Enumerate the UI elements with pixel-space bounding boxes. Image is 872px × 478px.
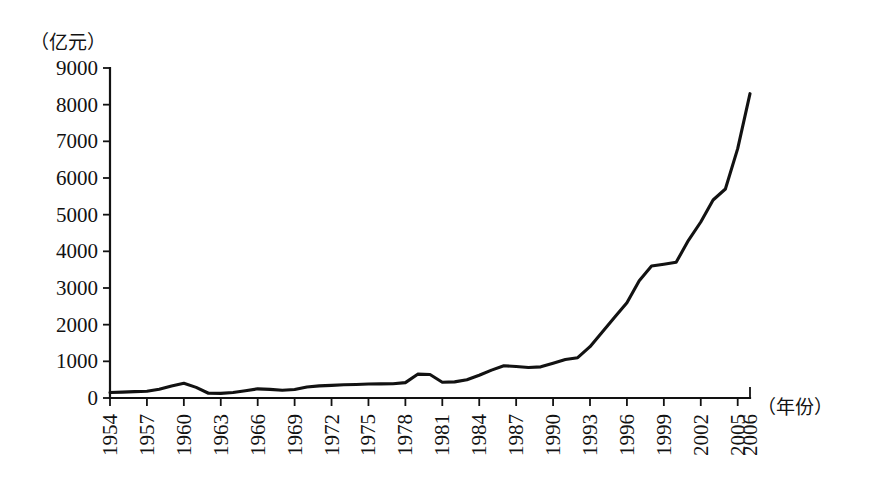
y-axis-tick-label: 7000 <box>56 129 98 153</box>
data-series-line <box>110 94 750 394</box>
x-axis-tick-label: 2006 <box>738 414 762 456</box>
x-axis-tick-label: 1969 <box>283 414 307 456</box>
y-axis-tick-label: 6000 <box>56 166 98 190</box>
y-axis-tick-label: 8000 <box>56 93 98 117</box>
y-axis-tick-label: 5000 <box>56 203 98 227</box>
y-axis-tick-label: 9000 <box>56 56 98 80</box>
x-axis-tick-label: 2002 <box>689 414 713 456</box>
y-axis-tick-label: 3000 <box>56 276 98 300</box>
y-axis-tick-label: 1000 <box>56 349 98 373</box>
x-axis-tick-label: 1978 <box>393 414 417 456</box>
x-axis-tick-label: 1966 <box>246 414 270 456</box>
x-axis-tick-label: 1993 <box>578 414 602 456</box>
x-axis-tick-label: 1987 <box>504 414 528 456</box>
x-axis-tick-label: 1990 <box>541 414 565 456</box>
y-axis-tick-label: 2000 <box>56 313 98 337</box>
x-axis-tick-label: 1957 <box>135 414 159 456</box>
x-axis-tick-label: 1999 <box>652 414 676 456</box>
x-axis-tick-label: 1954 <box>98 414 122 457</box>
x-axis-tick-label: 1963 <box>209 414 233 456</box>
y-axis-tick-label: 0 <box>88 386 99 410</box>
x-axis-tick-label: 1960 <box>172 414 196 456</box>
x-axis-tick-label: 1972 <box>320 414 344 456</box>
y-axis-ticks-group: 0100020003000400050006000700080009000 <box>56 56 110 410</box>
y-axis-tick-label: 4000 <box>56 239 98 263</box>
chart-figure: （亿元） （年份） 010002000300040005000600070008… <box>0 0 872 478</box>
x-axis-tick-label: 1984 <box>467 414 491 457</box>
line-chart-plot: 0100020003000400050006000700080009000 19… <box>0 0 872 478</box>
x-axis-tick-label: 1981 <box>430 414 454 456</box>
x-axis-tick-label: 1975 <box>356 414 380 456</box>
x-axis-tick-label: 1996 <box>615 414 639 456</box>
